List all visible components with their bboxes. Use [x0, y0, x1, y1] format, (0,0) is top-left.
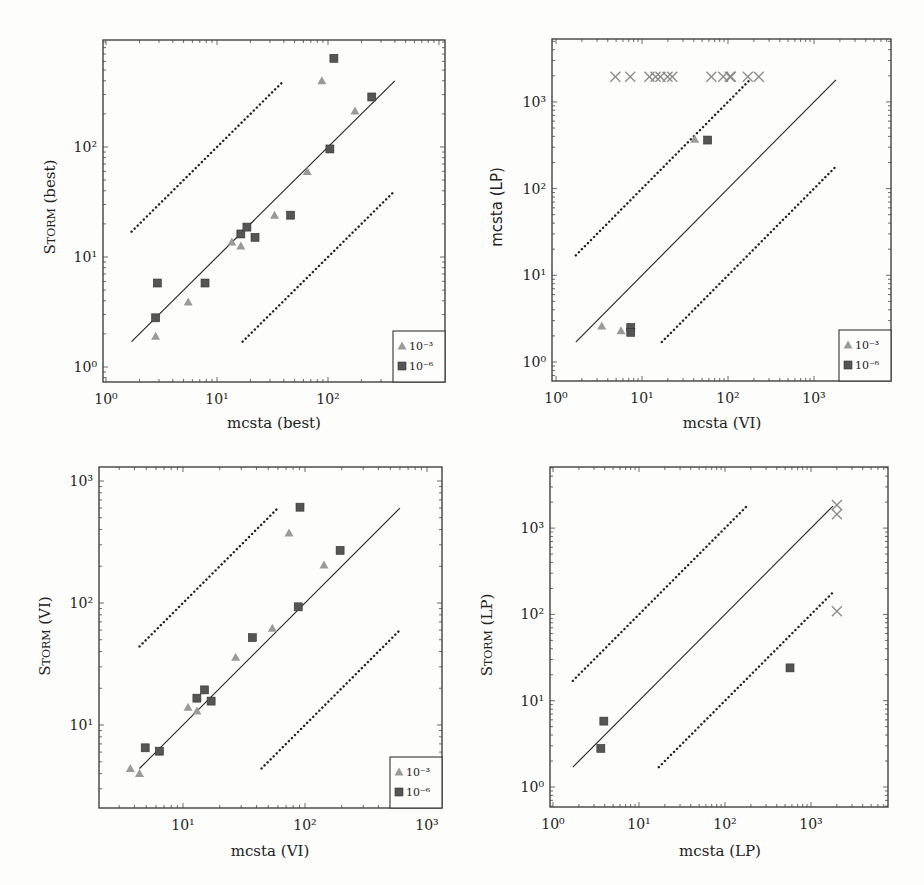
square-marker	[152, 314, 160, 322]
legend-entry-label: 10⁻⁶	[406, 786, 431, 799]
x-marker	[651, 72, 661, 82]
series-triangle	[126, 529, 329, 777]
square-marker	[248, 634, 256, 642]
y-tick-label: 10²	[521, 606, 544, 622]
series-x	[832, 500, 842, 616]
y-axis-label-main: mcsta	[488, 201, 506, 247]
series-square	[597, 664, 794, 753]
square-marker	[597, 744, 605, 752]
square-marker	[243, 223, 251, 231]
plot-storm-best-vs-mcsta-best: 10⁰10¹10²10⁰10¹10²10⁻³10⁻⁶ Storm (best) …	[0, 0, 462, 430]
legend: 10⁻³10⁻⁶	[839, 330, 891, 381]
diagonal-reference-line	[140, 508, 400, 768]
plot-storm-lp-vs-mcsta-lp: 10⁰10¹10²10³10⁰10¹10²10³ Storm (LP) mcst…	[462, 430, 924, 885]
x-tick-label: 10²	[713, 816, 736, 832]
x-marker	[832, 509, 842, 519]
triangle-marker	[126, 764, 135, 772]
square-marker	[296, 503, 304, 511]
x-marker	[625, 72, 635, 82]
square-marker	[395, 788, 403, 796]
plot-storm-vi-vs-mcsta-vi: 10¹10²10³10¹10²10³10⁻³10⁻⁶ Storm (VI) mc…	[0, 430, 462, 885]
plot-frame	[550, 467, 888, 807]
factor-10-reference-line	[576, 80, 750, 256]
factor-10-reference-line	[243, 191, 395, 342]
y-axis-label: Storm (best)	[41, 127, 59, 287]
y-axis-label: Storm (VI)	[36, 556, 54, 716]
series-triangle	[597, 135, 699, 335]
square-marker	[336, 546, 344, 554]
x-tick-label: 10³	[802, 390, 825, 406]
x-marker	[667, 72, 677, 82]
y-axis-label-suffix: (LP)	[478, 594, 496, 631]
x-tick-label: 10¹	[205, 391, 228, 407]
diagonal-reference-line	[132, 81, 395, 342]
square-marker	[326, 145, 334, 153]
x-tick-label: 10¹	[171, 817, 194, 833]
legend: 10⁻³10⁻⁶	[390, 757, 442, 808]
legend-entry-label: 10⁻³	[406, 766, 430, 779]
square-marker	[294, 603, 302, 611]
triangle-marker	[184, 703, 193, 711]
y-axis-label: Storm (LP)	[478, 555, 496, 715]
x-marker	[610, 72, 620, 82]
triangle-marker	[236, 241, 245, 249]
square-marker	[200, 686, 208, 694]
x-marker	[663, 72, 673, 82]
factor-10-reference-line	[573, 506, 747, 681]
plot-area-br: 10⁰10¹10²10³10⁰10¹10²10³	[462, 430, 924, 885]
axis-ticks	[550, 467, 888, 807]
triangle-marker	[151, 332, 160, 340]
square-marker	[704, 136, 712, 144]
square-marker	[287, 211, 295, 219]
factor-10-reference-line	[662, 166, 836, 342]
triangle-marker	[317, 76, 326, 84]
series-x	[610, 72, 763, 82]
x-tick-label: 10⁰	[544, 390, 568, 406]
y-axis-label-suffix: (best)	[41, 160, 59, 209]
legend-entry-label: 10⁻³	[855, 339, 879, 352]
square-marker	[251, 233, 259, 241]
diagonal-reference-line	[576, 80, 836, 342]
square-marker	[207, 697, 215, 705]
x-axis-label: mcsta (LP)	[640, 842, 800, 860]
triangle-marker	[270, 211, 279, 219]
y-tick-label: 10⁰	[521, 779, 545, 795]
factor-10-reference-line	[140, 508, 278, 646]
y-tick-label: 10⁰	[523, 354, 547, 370]
triangle-marker	[617, 326, 626, 334]
y-tick-label: 10²	[74, 139, 97, 155]
x-marker	[832, 500, 842, 510]
y-tick-label: 10¹	[523, 267, 546, 283]
x-tick-label: 10⁰	[541, 816, 565, 832]
triangle-marker	[319, 560, 328, 568]
y-tick-label: 10⁰	[74, 359, 98, 375]
factor-10-reference-line	[262, 630, 400, 768]
legend: 10⁻³10⁻⁶	[393, 331, 445, 382]
triangle-marker	[268, 624, 277, 632]
square-marker	[155, 747, 163, 755]
y-axis-label-main: Storm	[41, 208, 59, 254]
plot-area-tr: 10⁰10¹10²10³10⁰10¹10²10³10⁻³10⁻⁶	[462, 0, 924, 430]
plot-area-bl: 10¹10²10³10¹10²10³10⁻³10⁻⁶	[0, 430, 462, 885]
y-axis-label: mcsta (LP)	[488, 127, 506, 287]
y-axis-label-suffix: (LP)	[488, 167, 506, 201]
x-tick-label: 10¹	[630, 390, 653, 406]
x-marker	[706, 72, 716, 82]
square-marker	[786, 664, 794, 672]
triangle-marker	[135, 769, 144, 777]
y-tick-label: 10²	[523, 181, 546, 197]
x-tick-label: 10²	[716, 390, 739, 406]
square-marker	[141, 744, 149, 752]
x-tick-label: 10¹	[627, 816, 650, 832]
legend-entry-label: 10⁻³	[409, 340, 433, 353]
plot-mcsta-lp-vs-mcsta-vi: 10⁰10¹10²10³10⁰10¹10²10³10⁻³10⁻⁶ mcsta (…	[462, 0, 924, 430]
y-tick-label: 10¹	[74, 249, 97, 265]
y-tick-label: 10³	[70, 473, 93, 489]
x-marker	[726, 72, 736, 82]
triangle-marker	[184, 297, 193, 305]
x-marker	[725, 72, 735, 82]
square-marker	[627, 328, 635, 336]
x-marker	[754, 72, 764, 82]
y-axis-label-suffix: (VI)	[36, 596, 54, 629]
y-axis-label-main: Storm	[478, 630, 496, 676]
